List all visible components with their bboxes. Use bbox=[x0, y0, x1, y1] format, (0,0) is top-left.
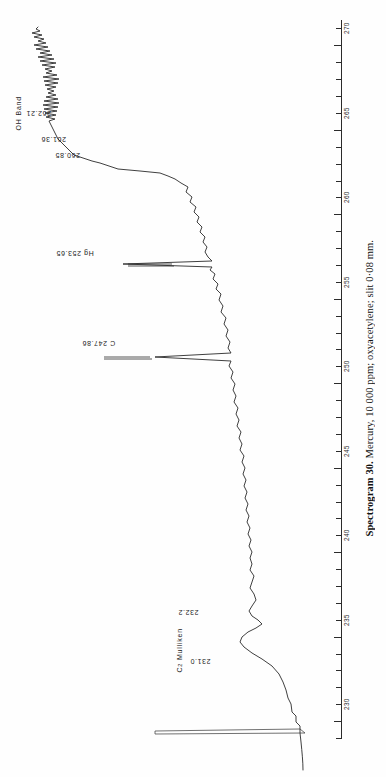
c2-mulliken-subscript: 2 bbox=[177, 663, 183, 667]
axis-tick-major bbox=[334, 383, 342, 384]
peak-label-261-36: 261.36 bbox=[41, 136, 66, 143]
axis-tick-minor bbox=[336, 164, 342, 165]
figure-caption-label: Spectrogram 30. bbox=[364, 461, 375, 536]
axis-tick-minor bbox=[336, 147, 342, 148]
plot-area: 262.21 261.36 260.85 Hg 253.65 C 247.86 … bbox=[0, 0, 386, 777]
axis-tick-major bbox=[334, 552, 342, 553]
c2-mulliken-suffix: Mulliken bbox=[176, 628, 183, 663]
axis-line bbox=[341, 20, 342, 738]
axis-tick-minor bbox=[336, 181, 342, 182]
axis-tick-minor bbox=[336, 113, 342, 114]
axis-tick-minor bbox=[336, 366, 342, 367]
axis-tick-minor bbox=[336, 687, 342, 688]
axis-tick-minor bbox=[336, 197, 342, 198]
axis-tick-minor bbox=[336, 62, 342, 63]
pen-trace bbox=[32, 27, 303, 770]
peak-label-232-2: 232.2 bbox=[178, 609, 199, 616]
figure-caption-body: Mercury, 10 000 ppm; oxyacetylene; slit … bbox=[364, 240, 375, 461]
axis-tick-minor bbox=[336, 96, 342, 97]
axis-tick-major bbox=[334, 45, 342, 46]
axis-tick-minor bbox=[336, 316, 342, 317]
axis-tick-label: 240 bbox=[343, 529, 350, 541]
axis-tick-minor bbox=[336, 79, 342, 80]
axis-tick-minor bbox=[336, 485, 342, 486]
c2-mulliken-prefix: C bbox=[176, 667, 183, 673]
axis-tick-minor bbox=[336, 265, 342, 266]
axis-tick-major bbox=[334, 721, 342, 722]
axis-tick-minor bbox=[336, 248, 342, 249]
axis-tick-minor bbox=[336, 518, 342, 519]
axis-tick-minor bbox=[336, 282, 342, 283]
spectrogram-page: 262.21 261.36 260.85 Hg 253.65 C 247.86 … bbox=[0, 0, 386, 777]
peak-label-260-85: 260.85 bbox=[55, 152, 80, 159]
axis-tick-minor bbox=[336, 620, 342, 621]
wavelength-axis: 230235240245250255260265270 bbox=[341, 20, 343, 738]
axis-tick-minor bbox=[336, 502, 342, 503]
axis-tick-minor bbox=[336, 569, 342, 570]
axis-tick-minor bbox=[336, 417, 342, 418]
axis-tick-label: 260 bbox=[343, 192, 350, 204]
axis-tick-minor bbox=[336, 654, 342, 655]
axis-tick-minor bbox=[336, 28, 342, 29]
axis-tick-label: 250 bbox=[343, 360, 350, 372]
axis-tick-minor bbox=[336, 603, 342, 604]
oh-band-label: OH Band bbox=[15, 96, 22, 130]
peak-label-231-0: 231.0 bbox=[190, 658, 211, 665]
axis-tick-minor bbox=[336, 333, 342, 334]
figure-caption-text: Spectrogram 30. Mercury, 10 000 ppm; oxy… bbox=[364, 240, 375, 537]
axis-tick-minor bbox=[336, 349, 342, 350]
axis-tick-major bbox=[334, 468, 342, 469]
axis-tick-minor bbox=[336, 535, 342, 536]
peak-label-hg-253-65: Hg 253.65 bbox=[56, 250, 94, 257]
axis-tick-minor bbox=[336, 738, 342, 739]
axis-tick-label: 235 bbox=[343, 614, 350, 626]
axis-tick-label: 255 bbox=[343, 276, 350, 288]
peak-label-262-21: 262.21 bbox=[26, 110, 51, 117]
axis-tick-minor bbox=[336, 704, 342, 705]
peak-label-c-247-86: C 247.86 bbox=[82, 340, 115, 347]
baseline bbox=[155, 729, 305, 734]
axis-tick-minor bbox=[336, 434, 342, 435]
axis-tick-minor bbox=[336, 231, 342, 232]
axis-tick-minor bbox=[336, 451, 342, 452]
axis-tick-label: 245 bbox=[343, 445, 350, 457]
axis-tick-label: 230 bbox=[343, 698, 350, 710]
c2-mulliken-label: C2 Mulliken bbox=[176, 628, 183, 673]
axis-tick-label: 270 bbox=[343, 23, 350, 35]
axis-tick-minor bbox=[336, 586, 342, 587]
axis-tick-label: 265 bbox=[343, 107, 350, 119]
axis-tick-minor bbox=[336, 400, 342, 401]
figure-caption: Spectrogram 30. Mercury, 10 000 ppm; oxy… bbox=[356, 0, 382, 777]
axis-tick-major bbox=[334, 299, 342, 300]
axis-tick-major bbox=[334, 130, 342, 131]
axis-tick-major bbox=[334, 637, 342, 638]
axis-tick-minor bbox=[336, 670, 342, 671]
axis-tick-major bbox=[334, 214, 342, 215]
